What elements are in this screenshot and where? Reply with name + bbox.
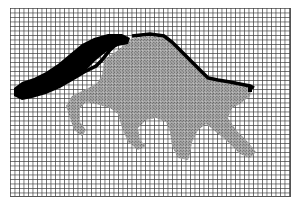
cat-illustration <box>0 0 296 204</box>
